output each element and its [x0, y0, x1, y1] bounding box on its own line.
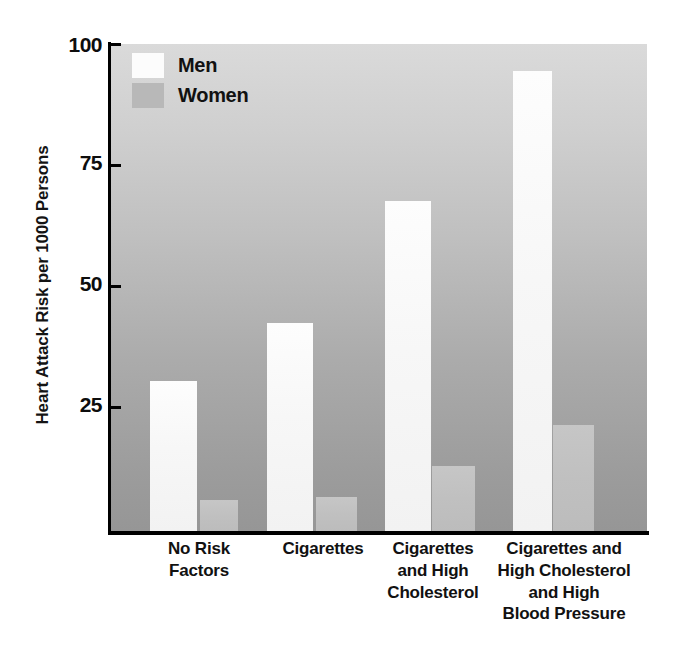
bar-men-cigarettes-cholesterol-blood-pressure — [513, 71, 552, 531]
bar-men-cigarettes-high-cholesterol — [385, 201, 431, 531]
legend-swatch-men-icon — [132, 53, 164, 78]
bar-chart: Heart Attack Risk per 1000 Persons 100 7… — [0, 0, 676, 653]
y-tick-mark-25 — [109, 406, 121, 409]
bar-women-cigarettes-high-cholesterol — [432, 466, 475, 531]
y-tick-mark-75 — [109, 164, 121, 167]
legend-swatch-women-icon — [132, 83, 164, 108]
plot-area: Men Women — [110, 44, 647, 531]
legend-item-women: Women — [132, 80, 248, 110]
legend-label-men: Men — [178, 55, 217, 75]
y-tick-label-100: 100 — [56, 34, 102, 55]
x-axis-line — [108, 531, 649, 535]
bar-women-no-risk-factors — [200, 500, 238, 531]
legend-label-women: Women — [178, 85, 248, 105]
x-label-cigarettes-cholesterol-blood-pressure: Cigarettes andHigh Cholesteroland HighBl… — [480, 538, 648, 625]
legend-item-men: Men — [132, 50, 248, 80]
y-tick-label-25: 25 — [56, 394, 102, 415]
legend: Men Women — [132, 50, 248, 110]
bar-men-cigarettes — [267, 323, 313, 531]
bar-men-no-risk-factors — [150, 381, 197, 531]
y-axis-tick-labels: 100 75 50 25 — [47, 0, 102, 653]
y-tick-label-50: 50 — [56, 273, 102, 294]
y-tick-label-75: 75 — [56, 152, 102, 173]
y-tick-mark-100 — [109, 43, 121, 46]
y-tick-mark-50 — [109, 285, 121, 288]
bar-women-cigarettes-cholesterol-blood-pressure — [553, 425, 594, 531]
bar-women-cigarettes — [316, 497, 357, 531]
x-axis-labels: No RiskFactors Cigarettes Cigarettesand … — [110, 538, 647, 653]
